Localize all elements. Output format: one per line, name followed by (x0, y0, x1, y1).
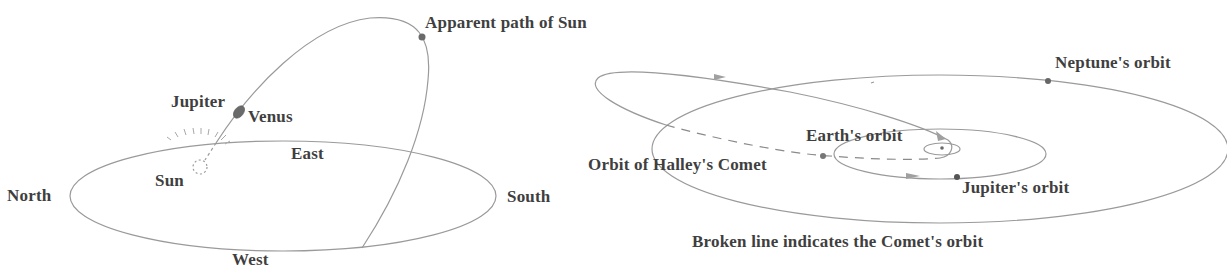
earth-orbit-label: Earth's orbit (806, 127, 903, 144)
sun-dot-icon (940, 146, 944, 150)
sun-below-horizon (193, 160, 207, 174)
south-label: South (507, 188, 551, 205)
neptune-dot-icon (1045, 78, 1051, 84)
jupiter-orbit-label: Jupiter's orbit (962, 179, 1069, 196)
orbit-diagram (595, 72, 1227, 223)
venus-label: Venus (248, 108, 293, 125)
tick-mark (871, 82, 874, 83)
east-label: East (291, 145, 324, 162)
sun-marker-icon (419, 34, 426, 41)
sun-label: Sun (155, 172, 184, 189)
halley-orbit-solid (595, 72, 951, 158)
sun-below-horizon-path (205, 143, 216, 160)
sky-diagram (70, 18, 496, 251)
jupiter-label: Jupiter (171, 93, 225, 110)
horizon-ellipse (70, 141, 496, 251)
caption: Broken line indicates the Comet's orbit (692, 233, 983, 250)
halley-orbit-label: Orbit of Halley's Comet (588, 156, 767, 173)
neptune-orbit (652, 75, 1227, 223)
apparent-sun-path (216, 18, 429, 248)
comet-dot-icon (820, 153, 826, 159)
apparent-path-label: Apparent path of Sun (425, 14, 587, 31)
north-label: North (7, 187, 51, 204)
direction-arrow-icon (936, 131, 946, 141)
direction-arrow-icon (714, 74, 726, 80)
west-label: West (232, 251, 269, 268)
neptune-orbit-label: Neptune's orbit (1055, 54, 1171, 71)
jupiter-dot-icon (954, 174, 960, 180)
